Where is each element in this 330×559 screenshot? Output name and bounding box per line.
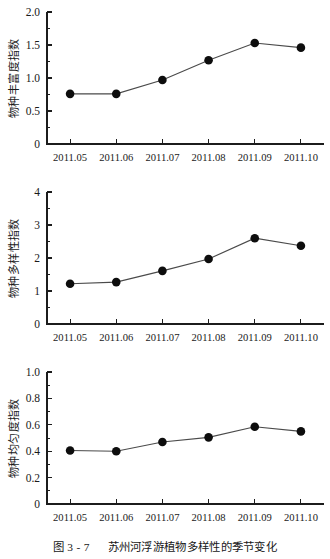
- y-tick-label: 0.8: [26, 392, 41, 404]
- data-point-marker: [204, 255, 213, 264]
- line-chart-svg: 00.20.40.60.81.02011.052011.062011.07201…: [0, 360, 330, 540]
- data-point-marker: [297, 43, 306, 52]
- data-point-marker: [112, 90, 121, 99]
- data-series-line: [70, 43, 301, 94]
- y-tick-label: 1.0: [26, 72, 41, 84]
- data-point-marker: [66, 279, 75, 288]
- x-tick-label: 2011.05: [53, 152, 87, 163]
- y-tick-label: 1: [34, 285, 40, 297]
- axis-lines: [47, 12, 324, 144]
- data-series-line: [70, 427, 301, 451]
- x-tick-label: 2011.07: [145, 152, 179, 163]
- x-tick-label: 2011.06: [99, 512, 133, 523]
- axis-lines: [47, 372, 324, 504]
- data-point-marker: [158, 76, 167, 85]
- x-tick-label: 2011.10: [284, 512, 318, 523]
- x-tick-label: 2011.07: [145, 512, 179, 523]
- x-tick-label: 2011.10: [284, 152, 318, 163]
- x-tick-label: 2011.10: [284, 332, 318, 343]
- y-axis-title: 物种丰富度指数: [7, 38, 21, 118]
- data-point-marker: [66, 90, 75, 99]
- y-tick-label: 4: [34, 186, 40, 198]
- y-tick-label: 0.2: [26, 472, 41, 484]
- data-point-marker: [250, 422, 259, 431]
- data-point-marker: [112, 278, 121, 287]
- y-axis-title: 物种均匀度指数: [7, 398, 21, 478]
- figure-container: 00.51.01.52.02011.052011.062011.072011.0…: [0, 0, 330, 559]
- data-point-marker: [297, 241, 306, 250]
- y-tick-label: 0: [34, 138, 40, 150]
- x-tick-label: 2011.08: [192, 512, 226, 523]
- y-tick-label: 0.5: [26, 105, 41, 117]
- x-tick-label: 2011.09: [238, 152, 272, 163]
- x-tick-label: 2011.05: [53, 332, 87, 343]
- chart-panel-species-richness: 00.51.01.52.02011.052011.062011.072011.0…: [0, 0, 330, 180]
- data-point-marker: [204, 433, 213, 442]
- y-tick-label: 0.6: [26, 419, 41, 431]
- x-tick-label: 2011.09: [238, 512, 272, 523]
- data-point-marker: [112, 447, 121, 456]
- data-point-marker: [250, 234, 259, 243]
- y-tick-label: 0: [34, 318, 40, 330]
- chart-panel-species-diversity: 012342011.052011.062011.072011.082011.09…: [0, 180, 330, 360]
- data-series-line: [70, 238, 301, 284]
- x-tick-label: 2011.08: [192, 332, 226, 343]
- data-point-marker: [66, 446, 75, 455]
- y-tick-label: 3: [34, 219, 40, 231]
- figure-caption: 图 3 - 7 苏州河浮游植物多样性的季节变化: [0, 538, 330, 554]
- data-point-marker: [204, 56, 213, 65]
- data-point-marker: [158, 438, 167, 447]
- y-tick-label: 0: [34, 498, 40, 510]
- y-tick-label: 2: [34, 252, 40, 264]
- data-point-marker: [297, 427, 306, 436]
- line-chart-svg: 00.51.01.52.02011.052011.062011.072011.0…: [0, 0, 330, 180]
- y-tick-label: 1.0: [26, 366, 41, 378]
- y-axis-title: 物种多样性指数: [7, 218, 21, 298]
- y-tick-label: 1.5: [26, 39, 41, 51]
- x-tick-label: 2011.07: [145, 332, 179, 343]
- data-point-marker: [158, 267, 167, 276]
- x-tick-label: 2011.06: [99, 332, 133, 343]
- figure-caption-text: 苏州河浮游植物多样性的季节变化: [108, 540, 278, 554]
- axis-lines: [47, 192, 324, 324]
- x-tick-label: 2011.09: [238, 332, 272, 343]
- x-tick-label: 2011.06: [99, 152, 133, 163]
- x-tick-label: 2011.05: [53, 512, 87, 523]
- chart-panel-species-evenness: 00.20.40.60.81.02011.052011.062011.07201…: [0, 360, 330, 538]
- figure-caption-number: 图 3 - 7: [53, 541, 90, 553]
- line-chart-svg: 012342011.052011.062011.072011.082011.09…: [0, 180, 330, 360]
- y-tick-label: 2.0: [26, 6, 41, 18]
- y-tick-label: 0.4: [26, 445, 41, 457]
- data-point-marker: [250, 39, 259, 48]
- x-tick-label: 2011.08: [192, 152, 226, 163]
